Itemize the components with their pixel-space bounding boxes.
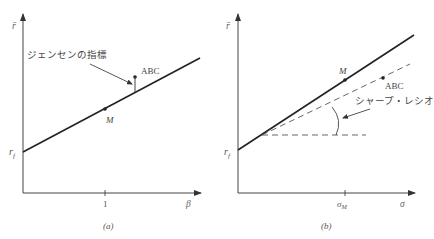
point-abc-label-b: ABC <box>385 81 404 91</box>
sml-line <box>23 58 200 152</box>
y-axis-label-a: r̄ <box>12 20 17 31</box>
jensen-arrow <box>90 64 132 84</box>
x-axis-label-b: σ <box>400 199 405 209</box>
caption-b: (b) <box>321 221 332 231</box>
figure: r̄ rf M ABC ジェンセンの指標 1 β (a) r̄ rf M ABC… <box>0 0 434 239</box>
tick-label-1: 1 <box>103 199 108 209</box>
rf-label-b: rf <box>224 146 231 160</box>
point-m-a <box>103 107 107 111</box>
sharpe-annotation: シャープ・レシオ <box>355 95 434 106</box>
tick-label-sigma-m: σM <box>337 199 347 210</box>
point-m-label-b: M <box>338 66 347 76</box>
x-axis-label-a: β <box>185 199 191 209</box>
sharpe-angle-arc <box>332 107 339 135</box>
rf-label-a: rf <box>9 146 16 160</box>
y-axis-label-b: r̄ <box>226 20 231 31</box>
point-m-b <box>343 78 347 82</box>
jensen-annotation: ジェンセンの指標 <box>27 49 107 60</box>
point-m-label-a: M <box>105 115 114 125</box>
sharpe-arrow <box>343 109 370 118</box>
panel-b: r̄ rf M ABC シャープ・レシオ σM σ (b) <box>224 14 434 231</box>
caption-a: (a) <box>103 221 114 231</box>
cml-line <box>238 35 414 150</box>
panel-a: r̄ rf M ABC ジェンセンの指標 1 β (a) <box>9 14 201 231</box>
point-abc-label-a: ABC <box>141 66 160 76</box>
point-abc-b <box>381 76 385 80</box>
